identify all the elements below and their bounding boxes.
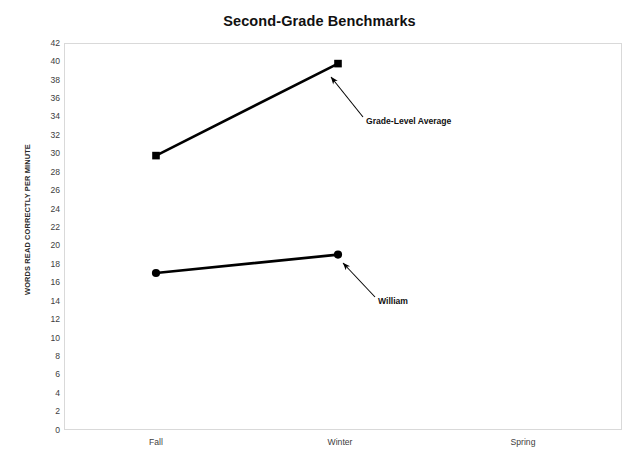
y-tick-label: 22	[34, 223, 60, 232]
y-tick-label: 10	[34, 334, 60, 343]
y-tick-label: 40	[34, 57, 60, 66]
y-tick-label: 42	[34, 39, 60, 48]
y-tick-label: 34	[34, 112, 60, 121]
chart-title: Second-Grade Benchmarks	[0, 13, 639, 29]
y-tick-label: 32	[34, 131, 60, 140]
y-tick-label: 6	[34, 370, 60, 379]
y-tick-label: 28	[34, 168, 60, 177]
annotation-label-william: William	[378, 296, 408, 306]
y-tick-label: 30	[34, 149, 60, 158]
y-tick-label: 38	[34, 76, 60, 85]
y-tick-label: 12	[34, 315, 60, 324]
y-tick-label: 24	[34, 205, 60, 214]
y-tick-label: 2	[34, 407, 60, 416]
y-tick-label: 20	[34, 241, 60, 250]
x-tick-label-spring: Spring	[463, 437, 583, 447]
y-tick-label: 26	[34, 186, 60, 195]
y-axis-tick-labels: 424038363432302826242220181614121086420	[0, 0, 60, 473]
chart-container: Second-Grade Benchmarks WORDS READ CORRE…	[0, 0, 639, 473]
y-tick-label: 16	[34, 278, 60, 287]
annotation-label-grade-level-average: Grade-Level Average	[366, 116, 451, 126]
y-tick-label: 4	[34, 389, 60, 398]
plot-area	[64, 43, 622, 430]
y-tick-label: 18	[34, 260, 60, 269]
x-tick-label-winter: Winter	[280, 437, 400, 447]
y-tick-label: 36	[34, 94, 60, 103]
y-tick-label: 14	[34, 297, 60, 306]
y-tick-label: 0	[34, 426, 60, 435]
y-tick-label: 8	[34, 352, 60, 361]
x-tick-label-fall: Fall	[96, 437, 216, 447]
